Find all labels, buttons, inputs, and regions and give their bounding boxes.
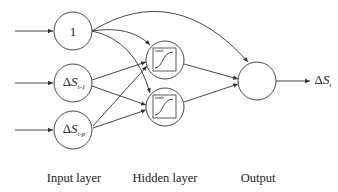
- input-node-label-lag1: ΔSt-1: [63, 75, 86, 91]
- input-layer-label: Input layer: [47, 171, 102, 186]
- output-node: [238, 62, 276, 100]
- edge-lagp-h1: [93, 66, 147, 126]
- activation-label-1: tanh: [155, 48, 164, 53]
- output-layer-label: Output: [241, 171, 276, 186]
- output-label: ΔSt: [315, 73, 332, 89]
- input-node-label-bias: 1: [70, 25, 77, 38]
- bias-value: 1: [70, 24, 77, 39]
- edge-lag1-h1: [92, 62, 146, 80]
- hidden-layer-label: Hidden layer: [133, 171, 198, 186]
- subscript: t-1: [78, 83, 86, 91]
- input-node-label-lagp: ΔSt-p: [63, 122, 86, 138]
- edge-bias-output: [92, 11, 248, 62]
- subscript: t-p: [78, 130, 86, 138]
- sigmoid-curve-icon: [155, 52, 173, 68]
- hidden-node-2: [146, 88, 184, 126]
- edge-bias-h1: [92, 30, 150, 45]
- hidden-node-1: [146, 41, 184, 79]
- sigmoid-curve-icon: [155, 99, 173, 115]
- edge-lag1-h2: [92, 86, 146, 105]
- subscript: t: [329, 81, 331, 89]
- edge-h2-output: [184, 84, 238, 102]
- edge-lagp-h2: [93, 110, 146, 128]
- edge-bias-h2: [92, 31, 150, 93]
- edge-h1-output: [184, 64, 238, 79]
- network-diagram: [0, 0, 338, 192]
- activation-label-2: tanh: [155, 95, 164, 100]
